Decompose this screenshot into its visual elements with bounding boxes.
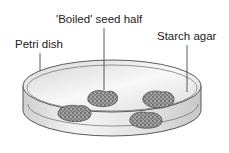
label-starch-agar: Starch agar <box>157 30 216 42</box>
petri-dish-diagram: 'Boiled' seed half Starch agar Petri dis… <box>0 0 229 153</box>
seed-half-1 <box>88 90 118 106</box>
seed-half-3 <box>58 105 91 121</box>
label-petri-dish: Petri dish <box>15 38 63 50</box>
seed-half-2 <box>143 91 174 108</box>
seed-half-4 <box>130 112 162 128</box>
label-boiled-seed-half: 'Boiled' seed half <box>56 13 142 25</box>
